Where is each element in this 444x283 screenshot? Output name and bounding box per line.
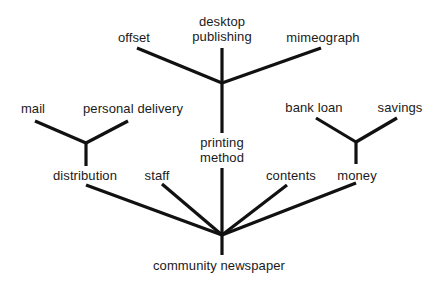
- node-offset: offset: [118, 30, 150, 45]
- node-desktop-line1: desktop: [192, 14, 252, 29]
- edge-root-contents: [222, 185, 287, 235]
- node-desktop-publishing: desktop publishing: [192, 14, 252, 44]
- node-contents: contents: [266, 168, 316, 183]
- node-money: money: [337, 168, 377, 183]
- edge-money-bank: [316, 118, 356, 142]
- edge-distribution-personal: [86, 121, 128, 143]
- node-printing-method: printing method: [200, 135, 244, 165]
- node-distribution: distribution: [53, 168, 117, 183]
- edge-root-staff: [162, 184, 222, 235]
- node-mail: mail: [21, 101, 45, 116]
- edge-root-money: [222, 183, 356, 235]
- node-savings: savings: [378, 100, 423, 115]
- edge-printing-offset: [137, 48, 222, 83]
- node-personal-delivery: personal delivery: [83, 101, 183, 116]
- node-printing-line2: method: [200, 150, 244, 165]
- node-printing-line1: printing: [200, 135, 244, 150]
- node-staff: staff: [145, 168, 170, 183]
- edge-root-distribution: [86, 185, 222, 235]
- edge-printing-mimeograph: [222, 48, 321, 83]
- edge-distribution-mail: [35, 121, 86, 143]
- node-mimeograph: mimeograph: [286, 30, 359, 45]
- edge-money-savings: [356, 118, 397, 142]
- node-desktop-line2: publishing: [192, 29, 252, 44]
- node-community-newspaper: community newspaper: [153, 258, 285, 273]
- node-bank-loan: bank loan: [285, 100, 342, 115]
